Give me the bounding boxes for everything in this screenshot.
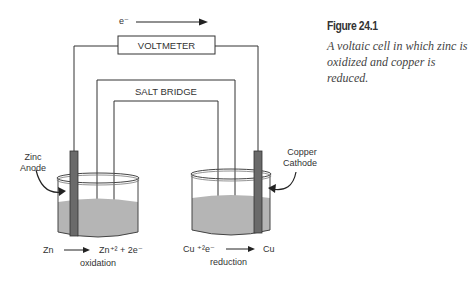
- anode-label-line2: Anode: [14, 163, 52, 174]
- voltmeter-label: VOLTMETER: [118, 40, 215, 51]
- oxidation-label: oxidation: [80, 258, 116, 269]
- figure-caption: A voltaic cell in which zinc is oxidized…: [327, 38, 472, 86]
- right-reactant: Cu ⁺²e⁻: [183, 244, 215, 255]
- left-product: Zn⁺² + 2e⁻: [99, 245, 143, 256]
- copper-cathode-rod: [254, 151, 262, 233]
- left-reactant: Zn: [43, 245, 54, 256]
- figure-title: Figure 24.1: [327, 18, 378, 33]
- right-product: Cu: [263, 244, 275, 255]
- zinc-anode-rod: [70, 151, 78, 236]
- anode-label-line1: Zinc: [18, 152, 48, 163]
- salt-bridge-label: SALT BRIDGE: [97, 86, 235, 97]
- reduction-label: reduction: [210, 257, 247, 268]
- electron-label: e⁻: [119, 16, 129, 27]
- cathode-label-line1: Copper: [280, 147, 324, 158]
- cathode-label-line2: Cathode: [276, 158, 324, 169]
